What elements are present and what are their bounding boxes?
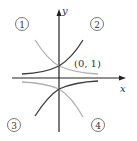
y-axis-label: y — [61, 5, 68, 16]
curve-3 — [22, 82, 83, 117]
quadrant-label-4: 4 — [92, 119, 105, 132]
svg-text:1: 1 — [19, 20, 25, 30]
svg-text:4: 4 — [95, 121, 101, 131]
point-label: (0, 1) — [74, 58, 101, 69]
y-axis-arrow-icon — [57, 9, 62, 16]
quadrant-label-1: 1 — [16, 18, 29, 31]
quadrant-label-2: 2 — [91, 18, 104, 31]
svg-text:3: 3 — [11, 121, 17, 131]
curve-4 — [35, 81, 98, 116]
quadrant-label-3: 3 — [8, 119, 21, 132]
x-axis-arrow-icon — [119, 76, 126, 81]
svg-text:2: 2 — [94, 20, 100, 30]
exponential-graph: y x (0, 1) 1 2 3 4 — [0, 0, 137, 141]
x-axis-label: x — [120, 83, 126, 94]
